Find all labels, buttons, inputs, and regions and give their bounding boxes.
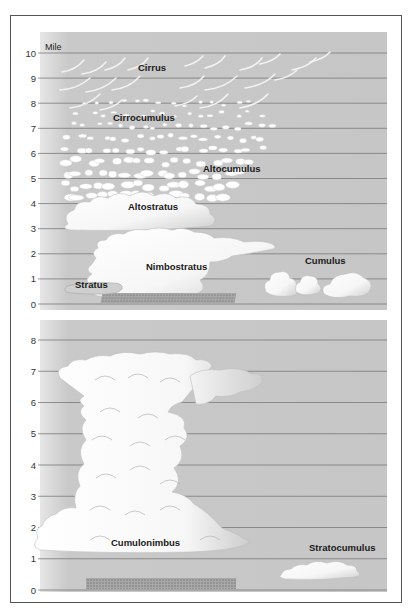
cloudlet — [68, 171, 81, 176]
lower-y-axis-ticks: 012345678 — [31, 335, 36, 596]
cloudlet — [170, 157, 178, 162]
label-cumulus: Cumulus — [305, 255, 346, 266]
tick-label-upper-6: 6 — [31, 148, 36, 159]
label-cirrocumulus: Cirrocumulus — [113, 112, 175, 123]
cloudlet — [213, 184, 225, 191]
label-cirrus: Cirrus — [138, 62, 166, 73]
cloudlet — [163, 173, 174, 179]
label-stratus: Stratus — [75, 279, 108, 290]
cloudlet — [113, 158, 122, 165]
cloudlet — [208, 146, 217, 150]
unit-label: Mile — [45, 42, 62, 52]
tick-label-upper-5: 5 — [31, 173, 36, 184]
tick-label-upper-1: 1 — [31, 273, 36, 284]
cloudlet — [95, 102, 99, 105]
cloudlet — [195, 193, 205, 200]
cloudlet — [237, 115, 242, 118]
cloudlet — [269, 124, 276, 128]
cloudlet — [221, 104, 226, 106]
cloudlet — [198, 115, 204, 118]
cloudlet — [144, 158, 154, 164]
cloudlet — [199, 101, 203, 104]
cloudlet — [80, 124, 85, 127]
tick-label-lower-4: 4 — [31, 460, 36, 471]
label-altocumulus: Altocumulus — [203, 163, 261, 174]
cloudlet — [190, 135, 197, 138]
tick-label-upper-7: 7 — [31, 123, 36, 134]
cloudlet — [207, 115, 213, 118]
cloudlet — [189, 124, 194, 128]
cloudlet — [182, 105, 187, 107]
cloudlet — [195, 180, 206, 186]
cloudlet — [240, 138, 247, 143]
cloudlet — [212, 173, 221, 180]
cloudlet — [188, 112, 192, 115]
cloud-altitude-diagram: 012345678910 012345678 Mile — [0, 0, 412, 610]
tick-label-lower-5: 5 — [31, 428, 36, 439]
cloudlet — [227, 136, 233, 140]
cloudlet — [140, 170, 153, 176]
cloudlet — [121, 138, 129, 142]
cloudlet — [61, 180, 70, 186]
cloudlet — [68, 195, 84, 201]
label-nimbostratus: Nimbostratus — [146, 261, 207, 272]
cloudlet — [235, 127, 242, 131]
cloudlet — [256, 137, 264, 142]
cloudlet — [197, 174, 209, 179]
cloudlet — [214, 135, 221, 139]
cloudlet — [94, 159, 105, 164]
cloudlet — [171, 102, 176, 104]
cloudlet — [87, 137, 94, 140]
cloudlet — [97, 123, 102, 126]
cloudlet — [215, 194, 230, 201]
cloudlet — [109, 101, 113, 104]
cloudlet — [60, 147, 68, 151]
cloudlet — [126, 149, 135, 154]
cloudlet — [155, 102, 161, 104]
cloudlet — [142, 184, 154, 191]
tick-label-upper-3: 3 — [31, 223, 36, 234]
cloudlet — [183, 158, 191, 163]
tick-label-lower-1: 1 — [31, 553, 36, 564]
label-cumulonimbus: Cumulonimbus — [111, 537, 180, 548]
cloudlet — [199, 138, 208, 141]
cloudlet — [110, 137, 116, 141]
tick-label-upper-10: 10 — [25, 48, 36, 59]
cloudlet — [109, 171, 117, 178]
cloudlet — [181, 146, 189, 152]
cloudlet — [118, 124, 123, 128]
cloudlet — [70, 156, 82, 163]
cloudlet — [199, 149, 208, 153]
cloudlet — [246, 100, 251, 102]
cloudlet — [226, 181, 240, 188]
cloudlet — [143, 99, 149, 102]
cloudlet — [63, 135, 70, 140]
cloudlet — [245, 122, 253, 125]
tick-label-lower-7: 7 — [31, 366, 36, 377]
cloudlet — [210, 101, 214, 104]
cloudlet — [157, 135, 164, 139]
cloudlet — [176, 123, 182, 127]
cloudlet — [219, 110, 225, 113]
cloudlet — [83, 102, 87, 104]
tick-label-lower-3: 3 — [31, 491, 36, 502]
tick-label-lower-2: 2 — [31, 522, 36, 533]
tick-label-upper-2: 2 — [31, 248, 36, 259]
tick-label-upper-9: 9 — [31, 73, 36, 84]
tick-label-upper-8: 8 — [31, 98, 36, 109]
cloudlet — [146, 150, 156, 156]
cloudlet — [178, 172, 187, 178]
cloudlet — [132, 158, 140, 163]
cloudlet — [162, 162, 170, 167]
tick-label-lower-6: 6 — [31, 397, 36, 408]
cloudlet — [129, 125, 135, 129]
cloudlet — [260, 145, 267, 149]
cloudlet — [102, 183, 115, 190]
cloudlet — [135, 100, 140, 103]
cloudlet — [73, 112, 79, 115]
cloudlet — [122, 99, 127, 101]
tick-label-lower-0: 0 — [31, 585, 36, 596]
cloudlet — [59, 160, 72, 166]
cloudlet — [103, 149, 111, 153]
cloudlet — [137, 134, 144, 138]
